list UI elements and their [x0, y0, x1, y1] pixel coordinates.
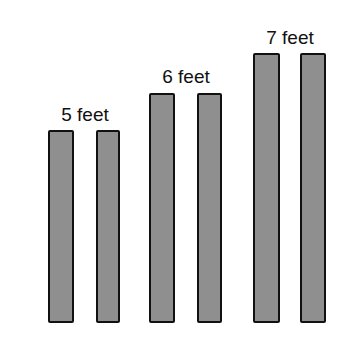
- bar-7ft-left: [253, 53, 280, 323]
- bar-5ft-right: [96, 130, 120, 323]
- bar-5ft-left: [48, 130, 74, 323]
- group-label-5ft: 5 feet: [61, 104, 109, 126]
- bar-6ft-right: [197, 93, 222, 323]
- bar-7ft-right: [300, 53, 326, 323]
- group-label-6ft: 6 feet: [162, 66, 210, 88]
- group-label-7ft: 7 feet: [266, 27, 314, 49]
- bar-6ft-left: [149, 93, 175, 323]
